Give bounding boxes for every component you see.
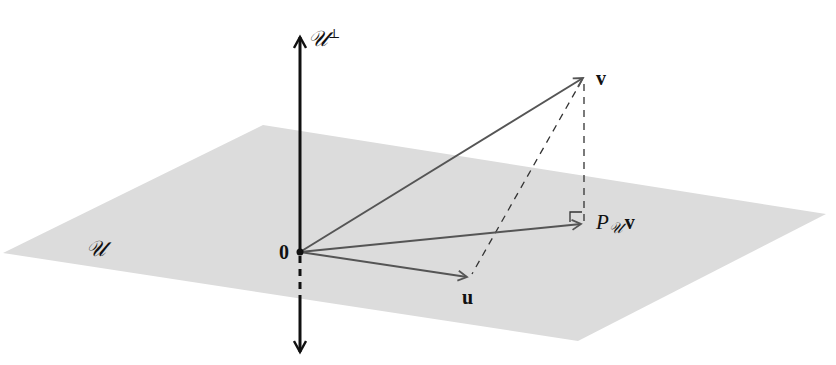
projection-diagram: 𝒰⊥ v P𝒰v u 0 𝒰 — [0, 0, 836, 365]
perp-axis-label: 𝒰⊥ — [308, 28, 340, 50]
plane-label: 𝒰 — [86, 238, 106, 260]
perp-axis-label-main: 𝒰 — [308, 26, 328, 51]
diagram-canvas — [0, 0, 836, 365]
subspace-plane — [3, 125, 826, 341]
vector-v-label: v — [596, 68, 606, 88]
vector-u-label: u — [462, 287, 473, 307]
origin-label: 0 — [279, 242, 289, 262]
projection-vector-v: v — [625, 211, 635, 233]
projection-subscript: 𝒰 — [609, 219, 623, 237]
projection-label: P𝒰v — [596, 212, 635, 233]
projection-operator-p: P — [596, 210, 609, 234]
perp-symbol: ⊥ — [328, 26, 340, 41]
origin-point — [297, 249, 304, 256]
